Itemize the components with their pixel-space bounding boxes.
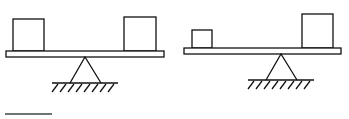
left-box (13, 19, 44, 51)
left-box (192, 30, 212, 48)
ground-hatch (288, 81, 294, 89)
balanced-seesaw (6, 17, 164, 92)
ground-hatch (60, 84, 66, 92)
fulcrum-triangle (70, 57, 101, 83)
fulcrum-triangle (266, 54, 297, 80)
ground-hatch (296, 81, 302, 89)
right-box (124, 17, 156, 51)
ground-hatch (68, 84, 74, 92)
ground-hatch (92, 84, 98, 92)
ground-hatch (248, 81, 254, 89)
ground-hatch (280, 81, 286, 89)
ground-hatch (100, 84, 106, 92)
ground-hatch (264, 81, 270, 89)
ground-hatch (272, 81, 278, 89)
ground-hatch (108, 84, 114, 92)
ground-hatch (52, 84, 58, 92)
ground-hatch (256, 81, 262, 89)
right-box (302, 14, 333, 48)
ground-hatch (76, 84, 82, 92)
ground-hatch (84, 84, 90, 92)
beam (184, 48, 341, 54)
seesaw-diagram (0, 0, 349, 119)
ground-hatch (304, 81, 310, 89)
unequal-seesaw (184, 14, 341, 89)
